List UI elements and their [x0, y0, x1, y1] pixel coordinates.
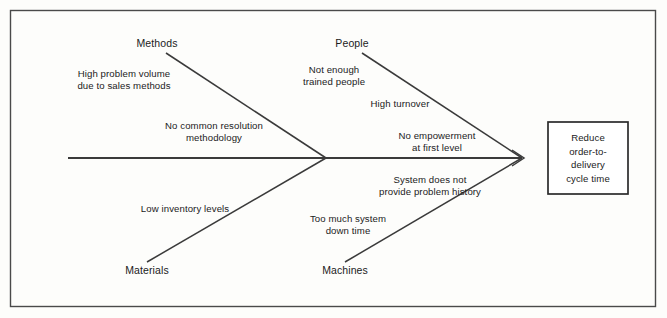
cause-label-people-1: Not enough trained people	[303, 64, 365, 89]
category-label-machines: Machines	[322, 264, 368, 277]
category-label-methods: Methods	[137, 37, 178, 50]
cause-label-methods-2: No common resolution methodology	[165, 120, 263, 145]
category-label-materials: Materials	[125, 264, 169, 277]
category-label-people: People	[335, 37, 368, 50]
cause-label-machines-1: System does not provide problem history	[379, 174, 481, 199]
cause-label-people-3: No empowerment at first level	[398, 130, 475, 155]
fishbone-diagram-page: Methods People Materials Machines High p…	[0, 0, 667, 318]
cause-label-materials-1: Low inventory levels	[141, 203, 229, 215]
cause-label-people-2: High turnover	[371, 98, 430, 110]
cause-label-machines-2: Too much system down time	[310, 213, 386, 238]
cause-label-methods-1: High problem volume due to sales methods	[77, 68, 170, 93]
effect-box-label: Reduce order-to- delivery cycle time	[555, 131, 621, 185]
